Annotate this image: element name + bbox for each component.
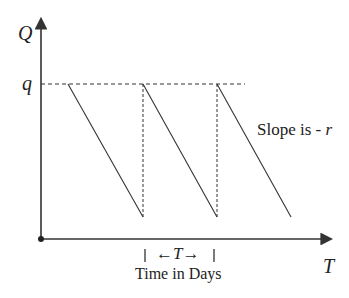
slope-annotation: Slope is - r xyxy=(257,120,332,140)
depletion-line-3 xyxy=(217,84,291,217)
period-label: ←T→ xyxy=(156,244,199,264)
depletion-line-1 xyxy=(68,84,143,217)
y-axis-label: Q xyxy=(18,22,32,45)
x-axis-label: T xyxy=(323,255,334,278)
q-level-label: q xyxy=(22,72,32,95)
slope-prefix: Slope is - xyxy=(257,120,321,139)
origin-dot xyxy=(38,236,44,242)
left-arrow-icon: ← xyxy=(156,244,173,263)
period-caption: Time in Days xyxy=(135,265,222,283)
slope-var: r xyxy=(325,120,332,139)
right-arrow-icon: → xyxy=(182,244,199,263)
depletion-line-2 xyxy=(143,84,217,217)
